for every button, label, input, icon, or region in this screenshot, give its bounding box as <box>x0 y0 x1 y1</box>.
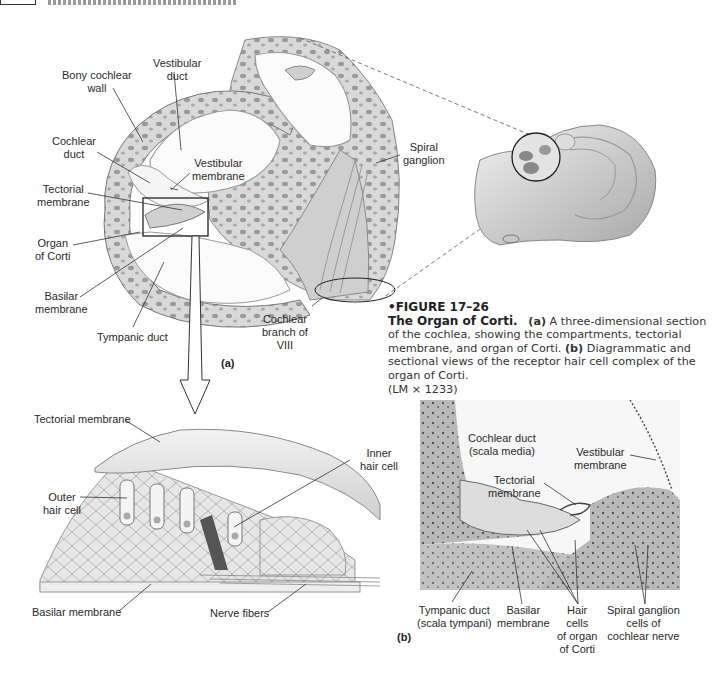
label-m-vestibular-membrane: Vestibular membrane <box>574 446 627 472</box>
label-vestibular-membrane: Vestibular membrane <box>192 157 245 183</box>
label-line: Basilar <box>35 290 88 303</box>
panel-b-tag: (b) <box>397 631 411 643</box>
label-line: cells of <box>607 617 680 630</box>
label-tectorial-membrane: Tectorial membrane <box>37 183 90 209</box>
label-line: Inner <box>360 447 398 460</box>
label-line: Organ <box>35 237 70 250</box>
label-organ-of-corti: Organ of Corti <box>35 237 70 263</box>
label-bony-cochlear-wall: Bony cochlear wall <box>62 69 132 95</box>
label-m-tympanic-duct: Tympanic duct (scala tympani) <box>417 604 492 630</box>
label-b-tectorial-membrane: Tectorial membrane <box>34 413 131 426</box>
label-line: branch of <box>262 326 308 339</box>
label-line: VIII <box>262 339 308 352</box>
label-line: of organ <box>557 630 597 643</box>
label-line: cochlear nerve <box>607 630 680 643</box>
label-line: ganglion <box>403 154 445 167</box>
label-b-basilar-membrane: Basilar membrane <box>32 606 121 619</box>
label-line: Vestibular <box>574 446 627 459</box>
label-line: duct <box>153 70 201 83</box>
label-line: wall <box>62 82 132 95</box>
label-line: membrane <box>497 617 550 630</box>
label-m-basilar-membrane: Basilar membrane <box>497 604 550 630</box>
label-m-hair-cells: Hair cells of organ of Corti <box>557 604 597 656</box>
label-cochlear-branch: Cochlear branch of VIII <box>262 313 308 352</box>
figure-caption: •FIGURE 17–26 The Organ of Corti. (a) A … <box>388 301 708 396</box>
label-line: membrane <box>488 487 541 500</box>
bullet-icon: • <box>388 300 396 314</box>
label-line: membrane <box>37 196 90 209</box>
label-line: Vestibular <box>153 57 201 70</box>
label-cochlear-duct: Cochlear duct <box>52 135 96 161</box>
label-line: Cochlear <box>52 135 96 148</box>
label-line: Tectorial <box>37 183 90 196</box>
label-line: membrane <box>574 459 627 472</box>
label-line: of Corti <box>557 643 597 656</box>
figure-number: •FIGURE 17–26 <box>388 301 708 315</box>
caption-part-a-tag: (a) <box>528 315 546 328</box>
label-line: Hair <box>557 604 597 617</box>
label-line: duct <box>52 148 96 161</box>
label-line: Tectorial <box>488 474 541 487</box>
label-line: Outer <box>43 491 81 504</box>
organ-of-corti-diagram <box>40 420 380 612</box>
label-line: Vestibular <box>192 157 245 170</box>
label-m-tectorial-membrane: Tectorial membrane <box>488 474 541 500</box>
label-line: (scala media) <box>468 445 536 458</box>
label-line: Cochlear duct <box>468 432 536 445</box>
label-spiral-ganglion: Spiral ganglion <box>403 141 445 167</box>
panel-a-tag: (a) <box>221 357 234 369</box>
figure-number-text: FIGURE 17–26 <box>396 300 489 314</box>
label-line: of Corti <box>35 250 70 263</box>
label-line: Basilar <box>497 604 550 617</box>
caption-magnification: (LM × 1233) <box>388 383 708 397</box>
organ-of-corti-micrograph <box>420 400 680 604</box>
label-m-spiral-ganglion: Spiral ganglion cells of cochlear nerve <box>607 604 680 643</box>
label-b-nerve-fibers: Nerve fibers <box>210 607 269 620</box>
label-line: membrane <box>35 303 88 316</box>
label-line: hair cell <box>360 460 398 473</box>
label-line: hair cell <box>43 504 81 517</box>
label-line: membrane <box>192 170 245 183</box>
label-m-cochlear-duct: Cochlear duct (scala media) <box>468 432 536 458</box>
label-line: Spiral ganglion <box>607 604 680 617</box>
label-line: (scala tympani) <box>417 617 492 630</box>
label-b-inner-hair-cell: Inner hair cell <box>360 447 398 473</box>
label-line: Cochlear <box>262 313 308 326</box>
label-vestibular-duct: Vestibular duct <box>153 57 201 83</box>
label-tympanic-duct: Tympanic duct <box>97 331 168 344</box>
label-line: Tympanic duct <box>417 604 492 617</box>
label-basilar-membrane: Basilar membrane <box>35 290 88 316</box>
cochlea-inset-illustration <box>475 125 656 245</box>
label-line: Bony cochlear <box>62 69 132 82</box>
label-b-outer-hair-cell: Outer hair cell <box>43 491 81 517</box>
label-line: cells <box>557 617 597 630</box>
caption-part-b-tag: (b) <box>565 342 583 355</box>
label-line: Spiral <box>403 141 445 154</box>
figure-title: The Organ of Corti. <box>388 314 518 328</box>
